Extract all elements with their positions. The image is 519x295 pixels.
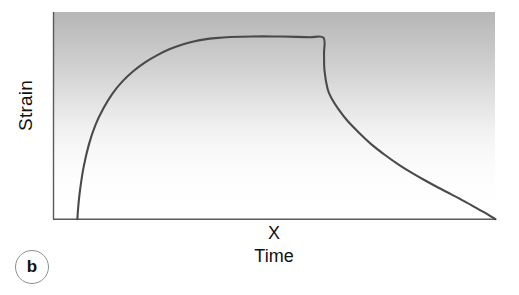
strain-curve-line	[77, 36, 495, 219]
x-axis-label-group: X Time	[53, 222, 495, 268]
x-axis-label: Time	[53, 244, 495, 268]
panel-letter-badge: b	[15, 250, 49, 284]
panel-letter-label: b	[27, 258, 37, 275]
x-axis-marker-label: X	[53, 222, 495, 244]
y-axis-label: Strain	[16, 58, 35, 154]
figure-panel-b: Strain X Time b	[0, 0, 519, 295]
